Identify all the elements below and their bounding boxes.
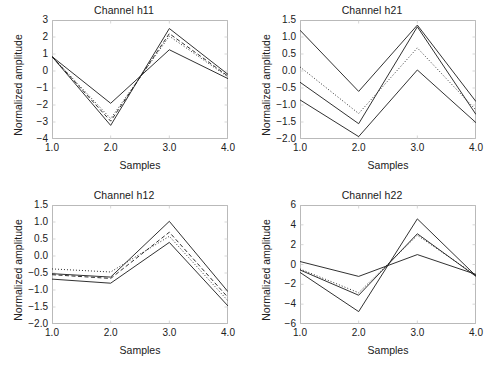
series-line-h21-mid-solid bbox=[300, 27, 476, 124]
x-tick-h22-3: 4.0 bbox=[469, 328, 483, 338]
x-tick-labels-h11: 1.02.03.04.0 bbox=[52, 143, 228, 157]
series-line-h22-mid-solid bbox=[300, 234, 476, 295]
y-tick-h21-7: 1.5 bbox=[282, 15, 296, 25]
subplot-h11: Channel h11 Normalized amplitude −4−3−2−… bbox=[0, 0, 248, 185]
subplot-h12: Channel h12 Normalized amplitude −2.0−1.… bbox=[0, 185, 248, 370]
y-tick-h21-4: 0.0 bbox=[282, 66, 296, 76]
y-tick-h21-6: 1.0 bbox=[282, 32, 296, 42]
x-tick-h11-3: 4.0 bbox=[221, 143, 235, 153]
y-tick-h12-2: −1.0 bbox=[28, 285, 48, 295]
y-tick-labels-h21: −2.0−1.5−1.0−0.50.00.51.01.5 bbox=[256, 20, 296, 139]
x-tick-h12-2: 3.0 bbox=[162, 328, 176, 338]
y-tick-h22-6: 6 bbox=[290, 200, 296, 210]
plot-lines-h12 bbox=[52, 205, 228, 324]
x-tick-h12-0: 1.0 bbox=[45, 328, 59, 338]
series-line-h12-lower-solid bbox=[52, 242, 228, 306]
x-axis-label-h11: Samples bbox=[52, 159, 228, 171]
y-tick-h12-1: −1.5 bbox=[28, 302, 48, 312]
x-tick-h11-1: 2.0 bbox=[104, 143, 118, 153]
plot-area-h22 bbox=[300, 205, 476, 324]
series-line-h11-lower-solid bbox=[52, 50, 228, 104]
plot-lines-h21 bbox=[300, 20, 476, 139]
y-tick-labels-h22: −6−4−20246 bbox=[256, 205, 296, 324]
subplot-h21: Channel h21 Normalized amplitude −2.0−1.… bbox=[248, 0, 496, 185]
x-tick-h21-0: 1.0 bbox=[293, 143, 307, 153]
y-tick-h22-5: 4 bbox=[290, 220, 296, 230]
x-tick-h21-1: 2.0 bbox=[352, 143, 366, 153]
y-tick-h12-4: 0.0 bbox=[34, 251, 48, 261]
y-tick-h21-3: −0.5 bbox=[276, 83, 296, 93]
y-tick-h21-2: −1.0 bbox=[276, 100, 296, 110]
plot-lines-h11 bbox=[52, 20, 228, 139]
y-tick-h22-4: 2 bbox=[290, 240, 296, 250]
x-tick-h12-1: 2.0 bbox=[104, 328, 118, 338]
series-line-h21-upper-solid bbox=[300, 25, 476, 102]
plot-area-h12 bbox=[52, 205, 228, 324]
y-tick-h21-1: −1.5 bbox=[276, 117, 296, 127]
x-tick-h11-0: 1.0 bbox=[45, 143, 59, 153]
y-tick-h12-3: −0.5 bbox=[28, 268, 48, 278]
y-tick-h11-4: 0 bbox=[42, 66, 48, 76]
x-tick-h22-1: 2.0 bbox=[352, 328, 366, 338]
y-tick-h11-1: −3 bbox=[37, 117, 48, 127]
subplot-title-h22: Channel h22 bbox=[248, 189, 496, 201]
x-tick-h22-2: 3.0 bbox=[410, 328, 424, 338]
x-tick-h11-2: 3.0 bbox=[162, 143, 176, 153]
x-tick-h22-0: 1.0 bbox=[293, 328, 307, 338]
plot-area-h21 bbox=[300, 20, 476, 139]
y-tick-h12-6: 1.0 bbox=[34, 217, 48, 227]
y-tick-labels-h12: −2.0−1.5−1.0−0.50.00.51.01.5 bbox=[8, 205, 48, 324]
x-tick-labels-h22: 1.02.03.04.0 bbox=[300, 328, 476, 342]
figure-canvas: Channel h11 Normalized amplitude −4−3−2−… bbox=[0, 0, 496, 370]
y-tick-h21-5: 0.5 bbox=[282, 49, 296, 59]
x-axis-label-h22: Samples bbox=[300, 344, 476, 356]
series-line-h12-mid-dashed bbox=[52, 232, 228, 297]
series-line-h21-lower-solid bbox=[300, 70, 476, 137]
plot-lines-h22 bbox=[300, 205, 476, 324]
y-tick-labels-h11: −4−3−2−10123 bbox=[8, 20, 48, 139]
series-line-h22-lower-solid bbox=[300, 255, 476, 277]
y-tick-h11-7: 3 bbox=[42, 15, 48, 25]
plot-area-h11 bbox=[52, 20, 228, 139]
y-tick-h22-1: −4 bbox=[285, 299, 296, 309]
y-tick-h12-7: 1.5 bbox=[34, 200, 48, 210]
y-tick-h11-6: 2 bbox=[42, 32, 48, 42]
x-tick-h12-3: 4.0 bbox=[221, 328, 235, 338]
y-tick-h11-3: −1 bbox=[37, 83, 48, 93]
x-axis-label-h21: Samples bbox=[300, 159, 476, 171]
subplot-h22: Channel h22 Normalized amplitude −6−4−20… bbox=[248, 185, 496, 370]
y-tick-h12-5: 0.5 bbox=[34, 234, 48, 244]
x-axis-label-h12: Samples bbox=[52, 344, 228, 356]
subplot-title-h11: Channel h11 bbox=[0, 4, 248, 16]
y-tick-h22-2: −2 bbox=[285, 279, 296, 289]
x-tick-labels-h21: 1.02.03.04.0 bbox=[300, 143, 476, 157]
x-tick-h21-2: 3.0 bbox=[410, 143, 424, 153]
y-tick-h11-2: −2 bbox=[37, 100, 48, 110]
x-tick-h21-3: 4.0 bbox=[469, 143, 483, 153]
x-tick-labels-h12: 1.02.03.04.0 bbox=[52, 328, 228, 342]
y-tick-h22-3: 0 bbox=[290, 260, 296, 270]
y-tick-h11-5: 1 bbox=[42, 49, 48, 59]
